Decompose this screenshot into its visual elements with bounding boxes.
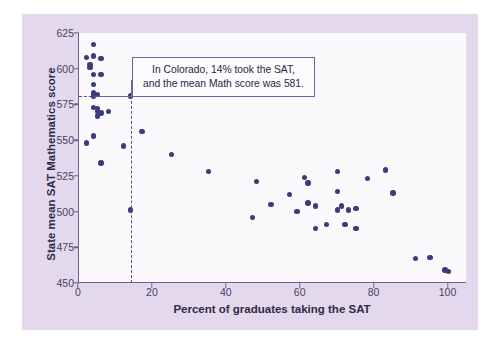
y-axis-tick-labels: 450475500525550575600625 xyxy=(42,33,74,283)
data-point xyxy=(98,160,103,165)
data-point xyxy=(390,190,395,195)
x-axis-tick-label: 80 xyxy=(368,286,380,298)
data-point xyxy=(91,82,96,87)
data-point xyxy=(383,167,388,172)
data-point xyxy=(95,113,100,118)
data-point xyxy=(87,65,92,70)
y-axis-tick-label: 475 xyxy=(56,241,74,253)
data-point xyxy=(250,215,255,220)
guide-line-vertical xyxy=(131,96,132,283)
data-point xyxy=(335,207,340,212)
data-point xyxy=(84,140,89,145)
data-point xyxy=(313,226,318,231)
y-axis-tick-label: 525 xyxy=(56,170,74,182)
data-point xyxy=(413,256,418,261)
data-point xyxy=(346,207,351,212)
data-point xyxy=(313,203,318,208)
data-point xyxy=(335,169,340,174)
x-axis-tick-label: 100 xyxy=(439,286,457,298)
data-point xyxy=(305,180,310,185)
x-axis-title: Percent of graduates taking the SAT xyxy=(78,303,466,315)
data-point xyxy=(268,202,273,207)
callout-text-line-1: In Colorado, 14% took the SAT, xyxy=(140,63,307,77)
data-point xyxy=(287,192,292,197)
y-axis-tick-label: 550 xyxy=(56,134,74,146)
data-point xyxy=(335,189,340,194)
y-axis-tick-label: 450 xyxy=(56,277,74,289)
data-point xyxy=(427,255,432,260)
x-axis-tick-label: 20 xyxy=(146,286,158,298)
y-axis-tick-label: 575 xyxy=(56,98,74,110)
data-point xyxy=(91,72,96,77)
x-axis-tick-label: 0 xyxy=(75,286,81,298)
data-point xyxy=(254,179,259,184)
y-axis-tick-label: 500 xyxy=(56,206,74,218)
data-point xyxy=(324,222,329,227)
data-point xyxy=(139,129,144,134)
data-point xyxy=(98,72,103,77)
x-axis-tick-label: 40 xyxy=(220,286,232,298)
data-point xyxy=(98,56,103,61)
data-point xyxy=(84,55,89,60)
data-point xyxy=(353,206,358,211)
data-point xyxy=(91,53,96,58)
data-point xyxy=(91,42,96,47)
x-axis-tick-label: 60 xyxy=(294,286,306,298)
data-point xyxy=(294,209,299,214)
data-point xyxy=(206,169,211,174)
x-axis-tick-labels: 020406080100 xyxy=(78,286,466,302)
colorado-annotation-box: In Colorado, 14% took the SAT, and the m… xyxy=(132,57,315,97)
data-point xyxy=(342,222,347,227)
data-point xyxy=(365,176,370,181)
data-point xyxy=(305,200,310,205)
data-point xyxy=(106,109,111,114)
figure-panel: State mean SAT Mathematics score 4504755… xyxy=(22,14,478,330)
data-point xyxy=(169,152,174,157)
y-axis-tick-label: 625 xyxy=(56,27,74,39)
data-point xyxy=(302,175,307,180)
data-point xyxy=(121,143,126,148)
callout-text-line-2: and the mean Math score was 581. xyxy=(140,77,307,91)
data-point xyxy=(91,133,96,138)
data-point xyxy=(353,226,358,231)
data-point xyxy=(446,269,451,274)
callout-leader-line-horizontal xyxy=(99,96,133,97)
y-axis-tick-label: 600 xyxy=(56,63,74,75)
